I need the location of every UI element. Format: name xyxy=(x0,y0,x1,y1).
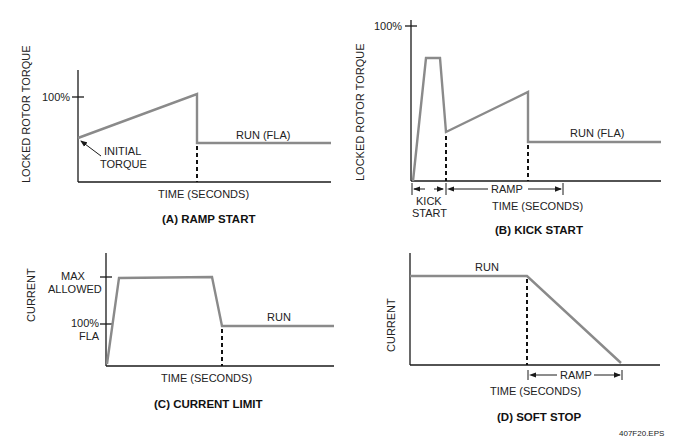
panel-b-caption: (B) KICK START xyxy=(495,224,583,236)
panel-a-initial-arrow xyxy=(81,141,101,156)
figure-id-label: 407F20.EPS xyxy=(619,429,664,438)
panel-c-run-label: RUN xyxy=(267,311,291,323)
panel-c-tick-max-label-1: MAX xyxy=(61,270,86,282)
panel-c-current-trace xyxy=(107,277,334,364)
panel-b-ylabel: LOCKED ROTOR TORQUE xyxy=(354,43,366,181)
panel-b-kick-start: LOCKED ROTOR TORQUE 100% RUN (FLA) KICK … xyxy=(354,20,661,236)
panel-a-torque-trace xyxy=(78,94,331,143)
panel-b-run-label: RUN (FLA) xyxy=(570,127,624,139)
panel-d-soft-stop: CURRENT RUN RAMP TIME (SECONDS) (D) SOFT… xyxy=(385,253,660,423)
panel-a-initial-label-1: INITIAL xyxy=(104,145,141,157)
panel-c-tick-100-label-1: 100% xyxy=(71,317,99,329)
panel-b-torque-trace xyxy=(413,58,661,181)
panel-c-ylabel: CURRENT xyxy=(25,268,37,322)
panel-a-caption: (A) RAMP START xyxy=(162,213,255,225)
panel-b-xlabel: TIME (SECONDS) xyxy=(492,200,583,212)
panel-b-tick-100-label: 100% xyxy=(374,20,402,32)
panel-d-current-trace xyxy=(410,276,621,363)
panel-d-run-label: RUN xyxy=(475,261,499,273)
panel-d-caption: (D) SOFT STOP xyxy=(497,411,581,423)
panel-a-run-label: RUN (FLA) xyxy=(236,129,290,141)
panel-c-tick-100-label-2: FLA xyxy=(79,330,100,342)
figure-canvas: LOCKED ROTOR TORQUE 100% INITIAL TORQUE … xyxy=(0,0,676,444)
panel-b-kick-label-2: START xyxy=(412,207,447,219)
panel-b-kick-arrowhead-left xyxy=(413,187,420,192)
panel-a-ramp-start: LOCKED ROTOR TORQUE 100% INITIAL TORQUE … xyxy=(20,45,331,225)
panel-a-ylabel: LOCKED ROTOR TORQUE xyxy=(20,45,32,183)
panel-c-caption: (C) CURRENT LIMIT xyxy=(154,398,263,410)
panel-a-tick-100-label: 100% xyxy=(42,91,70,103)
panel-d-ylabel: CURRENT xyxy=(385,298,397,352)
panel-a-initial-label-2: TORQUE xyxy=(100,158,147,170)
panel-b-kick-label-1: KICK xyxy=(416,195,442,207)
panel-b-ramp-label: RAMP xyxy=(491,183,523,195)
panel-c-current-limit: CURRENT MAX ALLOWED 100% FLA RUN TIME (S… xyxy=(25,253,334,410)
panel-a-xlabel: TIME (SECONDS) xyxy=(158,188,249,200)
panel-d-xlabel: TIME (SECONDS) xyxy=(490,385,581,397)
panel-d-ramp-label: RAMP xyxy=(560,369,592,381)
panel-c-tick-max-label-2: ALLOWED xyxy=(48,283,102,295)
panel-c-xlabel: TIME (SECONDS) xyxy=(161,372,252,384)
